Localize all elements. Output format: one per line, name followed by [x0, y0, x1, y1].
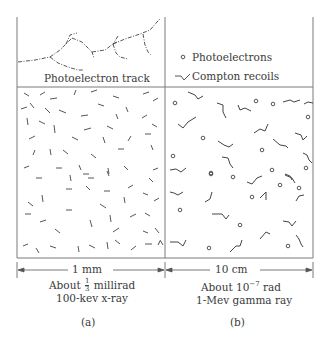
caption-a: (a) [81, 316, 95, 328]
dose-prefix-a: About [49, 279, 81, 291]
scale-label-b: 10 cm [215, 263, 248, 275]
legend-photoelectrons-label: Photoelectrons [192, 51, 272, 63]
legend-compton-label: Compton recoils [192, 70, 279, 82]
legend-symbols [175, 55, 190, 80]
dose-label-a: About 1 3 millirad [49, 278, 135, 293]
short-tracks-panel-a [21, 90, 163, 253]
photoelectron-legend-icon [181, 55, 185, 59]
dose-label-b: About 10−7 rad [201, 280, 281, 293]
compton-legend-icon [175, 74, 190, 80]
radiation-label-a: 100-kev x-ray [56, 292, 128, 304]
dose-exponent-b: −7 [249, 280, 259, 288]
photoelectron-markers [171, 99, 310, 250]
compton-recoil-tracks [158, 92, 313, 252]
scale-label-a: 1 mm [72, 263, 102, 275]
dose-fraction: 1 3 [85, 278, 89, 293]
caption-b: (b) [230, 316, 245, 328]
photoelectron-track [18, 19, 160, 70]
dose-suffix-a: millirad [94, 279, 135, 291]
photoelectron-track-label: Photoelectron track [44, 72, 150, 84]
radiation-label-b: 1-Mev gamma ray [196, 294, 292, 306]
